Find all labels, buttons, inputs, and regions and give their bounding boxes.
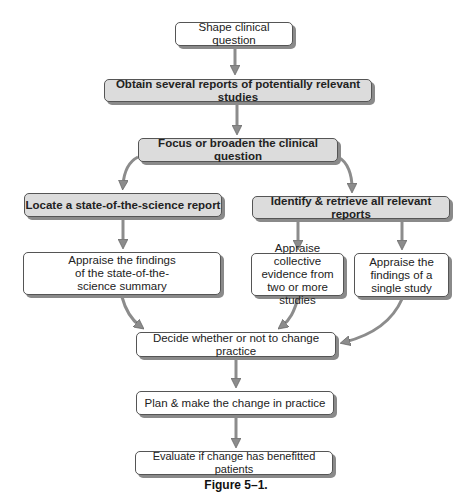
arrow-focus-to-locate: [123, 157, 138, 185]
node-appraise-collective: Appraise collective evidence from two or…: [251, 253, 344, 296]
node-appraise-summary: Appraise the findings of the state-of-th…: [23, 252, 221, 295]
arrow-single-to-decide: [345, 299, 402, 342]
node-decide-change: Decide whether or not to change practice: [136, 332, 336, 357]
node-evaluate-benefit: Evaluate if change has benefitted patien…: [135, 451, 333, 475]
node-focus-question: Focus or broaden the clinical question: [138, 138, 338, 162]
node-plan-change: Plan & make the change in practice: [136, 391, 334, 415]
node-locate-report: Locate a state-of-the-science report: [24, 193, 222, 217]
arrow-focus-to-identify: [338, 157, 352, 188]
node-appraise-single: Appraise the findings of a single study: [354, 253, 449, 297]
node-identify-reports: Identify & retrieve all relevant reports: [252, 196, 450, 219]
node-shape-clinical-question: Shape clinical question: [175, 22, 293, 46]
figure-caption: Figure 5–1.: [0, 478, 472, 492]
arrow-summary-to-decide: [122, 297, 140, 326]
connector-arrows: [0, 0, 472, 502]
node-obtain-reports: Obtain several reports of potentially re…: [104, 79, 372, 102]
